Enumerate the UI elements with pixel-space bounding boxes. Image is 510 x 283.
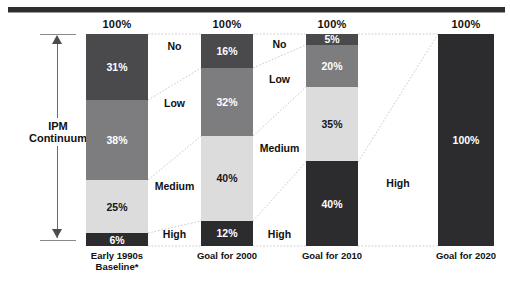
ipm-continuum-axis: IPM Continuum — [30, 26, 86, 248]
category-label-high: High — [255, 228, 304, 240]
bar-segment-value: 100% — [453, 134, 480, 146]
stacked-bar[interactable]: 16%32%40%12% — [201, 34, 253, 246]
category-label-high: High — [360, 177, 436, 189]
bar-segment-no[interactable]: 5% — [306, 34, 358, 45]
column-axis-label-line2: Baseline* — [64, 261, 170, 272]
column-axis-label: Early 1990sBaseline* — [64, 250, 170, 272]
bar-segment-high[interactable]: 12% — [201, 221, 253, 246]
bar-segment-high[interactable]: 6% — [86, 233, 148, 246]
bar-segment-no[interactable]: 16% — [201, 34, 253, 68]
bar-segment-value: 40% — [216, 172, 237, 184]
category-label-low: Low — [255, 73, 304, 85]
column-total-label: 100% — [438, 18, 494, 30]
bar-segment-low[interactable]: 32% — [201, 68, 253, 136]
bar-segment-high[interactable]: 100% — [438, 34, 494, 246]
category-label-no: No — [150, 40, 199, 52]
stacked-bar[interactable]: 100% — [438, 34, 494, 246]
bar-segment-value: 20% — [321, 60, 342, 72]
bar-segment-value: 31% — [106, 61, 127, 73]
column-axis-label: Goal for 2000 — [179, 250, 275, 261]
category-label-medium: Medium — [150, 180, 199, 192]
column-axis-label: Goal for 2020 — [416, 250, 510, 261]
bar-segment-high[interactable]: 40% — [306, 161, 358, 246]
bar-segment-medium[interactable]: 40% — [201, 136, 253, 221]
bar-segment-medium[interactable]: 25% — [86, 180, 148, 233]
column-total-label: 100% — [306, 18, 358, 30]
column-axis-label-line1: Early 1990s — [64, 250, 170, 261]
bar-segment-medium[interactable]: 35% — [306, 87, 358, 161]
axis-title-line1: IPM — [26, 120, 90, 132]
top-divider-rule — [8, 7, 505, 12]
axis-title-line2: Continuum — [26, 132, 90, 144]
column-total-label: 100% — [201, 18, 253, 30]
column-axis-label-line1: Goal for 2020 — [416, 250, 510, 261]
bar-segment-value: 32% — [216, 96, 237, 108]
bar-segment-no[interactable]: 31% — [86, 34, 148, 100]
column-total-label: 100% — [86, 18, 148, 30]
column-axis-label-line1: Goal for 2000 — [179, 250, 275, 261]
bar-segment-value: 6% — [109, 234, 124, 246]
arrow-up-icon — [52, 35, 62, 44]
stacked-bar[interactable]: 31%38%25%6% — [86, 34, 148, 246]
category-label-no: No — [255, 38, 304, 50]
bar-segment-value: 12% — [216, 227, 237, 239]
bar-segment-low[interactable]: 20% — [306, 45, 358, 87]
bar-segment-value: 40% — [321, 198, 342, 210]
axis-bottom-cap — [40, 240, 76, 241]
bar-segment-low[interactable]: 38% — [86, 100, 148, 181]
category-label-high: High — [150, 228, 199, 240]
category-label-low: Low — [150, 97, 199, 109]
stacked-bar[interactable]: 5%20%35%40% — [306, 34, 358, 246]
arrow-down-icon — [52, 229, 62, 238]
chart-canvas: IPM Continuum 100%31%38%25%6%Early 1990s… — [0, 0, 510, 283]
bar-segment-value: 25% — [106, 201, 127, 213]
axis-title: IPM Continuum — [26, 118, 90, 146]
bar-segment-value: 5% — [324, 34, 339, 45]
bar-segment-value: 38% — [106, 134, 127, 146]
column-axis-label: Goal for 2010 — [284, 250, 380, 261]
bar-segment-value: 16% — [216, 45, 237, 57]
column-axis-label-line1: Goal for 2010 — [284, 250, 380, 261]
bar-segment-value: 35% — [321, 118, 342, 130]
category-label-medium: Medium — [255, 142, 304, 154]
